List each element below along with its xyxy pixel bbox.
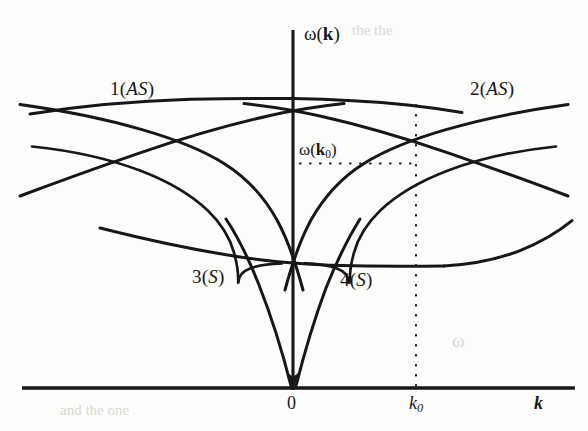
k0-tick-subscript: 0	[417, 401, 423, 415]
left-centre-lobe-curve	[238, 263, 282, 282]
omega-k0-label-close: )	[331, 140, 337, 159]
omega-k0-label-omega: ω(	[299, 140, 316, 159]
lower-right-rising-curve	[444, 221, 572, 266]
branch-label-2-as: 2(AS)	[470, 79, 514, 98]
branch-1-number: 1	[110, 78, 120, 99]
branch-label-1-as: 1(AS)	[110, 79, 154, 98]
x-axis-label: k	[534, 394, 543, 412]
right-inner-arc-curve	[350, 147, 556, 283]
v-left-branch	[226, 219, 291, 386]
branch-3-mode: S	[208, 266, 218, 287]
branch-1-mode: AS	[126, 78, 148, 99]
y-axis-label-omega: ω(	[304, 23, 323, 44]
branch-label-3-s: 3(S)	[192, 267, 224, 286]
origin-tick-label: 0	[287, 394, 296, 412]
left-straight-ascending-branch	[20, 104, 344, 196]
branch-2-mode: AS	[486, 78, 508, 99]
omega-k0-label: ω(k0)	[299, 141, 337, 160]
branch-4-close: )	[366, 269, 373, 290]
left-inner-arc-curve	[32, 147, 238, 283]
y-axis-label: ω(k)	[304, 24, 340, 43]
dispersion-figure: ω(k) ω(k0) 1(AS) 2(AS) 3(S) 4(S) 0 k0 k …	[0, 0, 588, 431]
branch-2-close: )	[508, 78, 515, 99]
curves-group	[20, 98, 572, 386]
branch-1-close: )	[148, 78, 155, 99]
branch-2-number: 2	[470, 78, 480, 99]
right-straight-descending-branch	[285, 105, 568, 291]
k0-tick-label: k0	[409, 394, 423, 414]
left-straight-descending-branch	[20, 105, 303, 291]
branch-3-close: )	[218, 266, 225, 287]
omega-k0-label-k: k	[316, 140, 325, 159]
lower-flat-symmetric-branch	[100, 228, 444, 266]
branch-3-number: 3	[192, 266, 202, 287]
branch-4-mode: S	[356, 269, 366, 290]
k0-tick-letter: k	[409, 393, 417, 413]
v-right-branch	[296, 219, 360, 386]
branch-4-number: 4	[340, 269, 350, 290]
y-axis-label-close: )	[333, 23, 339, 44]
branch-label-4-s: 4(S)	[340, 270, 372, 289]
y-axis-label-k: k	[323, 23, 334, 44]
dispersion-plot	[0, 0, 588, 431]
upper-dome-curve	[30, 98, 462, 114]
